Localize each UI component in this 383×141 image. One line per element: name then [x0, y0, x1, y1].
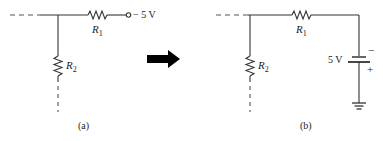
- source-minus-sign: −: [368, 45, 374, 56]
- r2-label-a: R2: [66, 60, 77, 74]
- r2-label-b: R2: [258, 60, 269, 74]
- panel-b-circuit: [216, 11, 370, 112]
- resistor-r1-b: [292, 11, 311, 19]
- terminal-circle: [126, 13, 130, 17]
- ground-icon: [352, 103, 366, 109]
- r1-label-a: R1: [92, 24, 103, 38]
- caption-a: (a): [78, 121, 89, 131]
- r1-label-b: R1: [296, 24, 307, 38]
- source-plus-sign: +: [367, 64, 373, 75]
- terminal-voltage-label: − 5 V: [133, 10, 156, 20]
- circuit-diagram: [0, 0, 383, 141]
- caption-b: (b): [300, 121, 312, 131]
- resistor-r2-b: [246, 56, 254, 76]
- resistor-r2-a: [54, 56, 62, 76]
- source-voltage-label: 5 V: [328, 55, 343, 65]
- resistor-r1-a: [88, 11, 107, 19]
- transform-arrow: [147, 50, 180, 68]
